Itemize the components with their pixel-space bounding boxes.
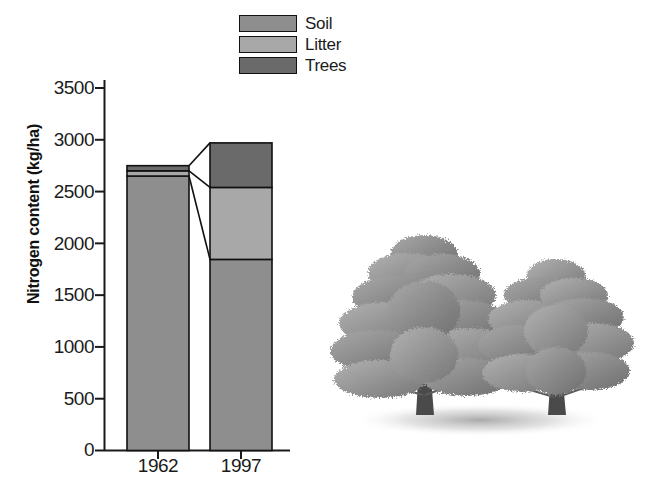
bar-segment-1997-trees bbox=[210, 143, 272, 188]
bar-group bbox=[127, 143, 272, 451]
connector-line-0 bbox=[189, 143, 210, 166]
ground-shadow bbox=[350, 403, 610, 437]
two-conifer-trees-illustration bbox=[330, 215, 650, 477]
bar-segment-1962-trees bbox=[127, 166, 189, 171]
tree-left bbox=[330, 235, 516, 415]
connector-line-2 bbox=[189, 176, 210, 259]
connector-line-1 bbox=[189, 171, 210, 188]
bar-segment-1997-litter bbox=[210, 187, 272, 259]
connector-lines bbox=[189, 143, 210, 260]
bar-segment-1997-soil bbox=[210, 259, 272, 450]
tree-right bbox=[478, 259, 634, 415]
chart-figure: Nitrogen content (kg/ha) 3500 3000 2500 … bbox=[0, 0, 653, 491]
tree-right-foliage bbox=[478, 259, 634, 395]
bar-segment-1962-soil bbox=[127, 176, 189, 450]
